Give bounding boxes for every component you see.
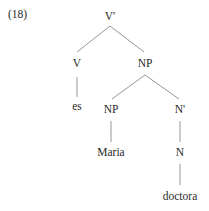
node-n: N — [176, 147, 184, 159]
node-n-bar: N' — [175, 104, 185, 116]
node-np-inner: NP — [104, 104, 119, 116]
node-v: V — [73, 58, 81, 70]
edge-np-to-np — [112, 75, 145, 99]
edge-np-to-nbar — [145, 75, 179, 99]
edge-vbar-to-v — [77, 26, 110, 52]
edge-vbar-to-np — [110, 26, 144, 52]
leaf-es: es — [72, 101, 82, 113]
leaf-maria: Maria — [97, 147, 124, 159]
node-np-top: NP — [138, 58, 153, 70]
leaf-doctora: doctora — [163, 191, 197, 203]
node-v-bar: V' — [105, 11, 115, 23]
